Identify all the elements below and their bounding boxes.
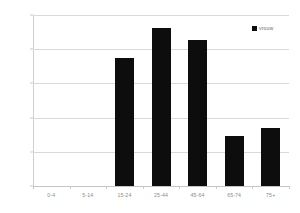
- bar: [115, 58, 134, 186]
- x-axis-tick-mark: [289, 186, 290, 189]
- x-axis-tick-label: 15-24: [117, 192, 131, 198]
- x-axis-tick-mark: [143, 186, 144, 189]
- gridline: [33, 186, 289, 187]
- bar: [188, 40, 207, 186]
- bar: [225, 136, 244, 186]
- legend-label-vrouw: vrouw: [259, 25, 273, 31]
- x-axis-tick-label: 0-4: [47, 192, 55, 198]
- x-axis-tick-mark: [70, 186, 71, 189]
- legend: vrouw: [252, 25, 273, 31]
- x-axis-tick-mark: [106, 186, 107, 189]
- x-axis-tick-label: 65-74: [227, 192, 241, 198]
- plot-area: [33, 15, 289, 186]
- bar: [152, 28, 171, 186]
- x-axis-tick-mark: [179, 186, 180, 189]
- x-axis-tick-label: 5-14: [82, 192, 93, 198]
- x-axis-tick-mark: [252, 186, 253, 189]
- x-axis-tick-label: 75+: [266, 192, 275, 198]
- x-axis-tick-mark: [33, 186, 34, 189]
- bar-chart: 00,511,522,5 0-45-1415-2425-4445-6465-74…: [0, 0, 300, 213]
- bar-series-vrouw: [33, 15, 289, 186]
- x-axis-tick-mark: [216, 186, 217, 189]
- x-axis-tick-label: 45-64: [191, 192, 205, 198]
- x-axis-tick-label: 25-44: [154, 192, 168, 198]
- bar: [261, 128, 280, 186]
- legend-swatch-vrouw: [252, 26, 257, 31]
